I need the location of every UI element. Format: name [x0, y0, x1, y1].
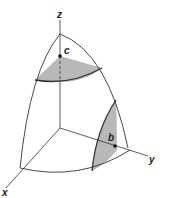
z-axis-label: z [56, 9, 62, 20]
x-axis-label: x [1, 187, 8, 198]
x-axis [6, 128, 60, 188]
point-c [58, 54, 62, 58]
left-boundary-arc [20, 34, 60, 168]
top-cap-region [35, 56, 102, 82]
point-c-label: c [64, 45, 70, 56]
y-axis-label: y [148, 154, 155, 165]
point-b [113, 144, 117, 148]
point-b-label: b [108, 132, 114, 143]
octant-surface-diagram: z x y c b [0, 0, 173, 198]
